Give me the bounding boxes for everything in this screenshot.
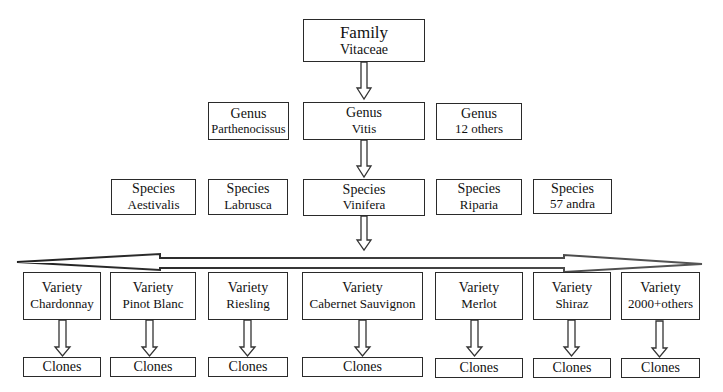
arrow-down-icon	[564, 320, 579, 356]
taxon-name: Cabernet Sauvignon	[310, 297, 416, 312]
species-box-57-andra: Species 57 andra	[533, 179, 612, 214]
rank-label: Variety	[228, 280, 268, 296]
rank-label: Species	[227, 181, 270, 197]
taxon-name: Labrusca	[224, 198, 272, 213]
rank-label: Variety	[342, 280, 382, 296]
clones-label: Clones	[343, 359, 382, 375]
taxon-name: Vinifera	[343, 198, 386, 213]
taxon-name: Aestivalis	[128, 198, 180, 213]
rank-label: Species	[458, 181, 501, 197]
clones-box: Clones	[208, 357, 288, 377]
taxon-name: 2000+others	[628, 297, 693, 312]
rank-label: Variety	[640, 280, 680, 296]
clones-label: Clones	[553, 360, 592, 376]
rank-label: Variety	[459, 280, 499, 296]
clones-label: Clones	[229, 359, 268, 375]
clones-box: Clones	[621, 358, 700, 378]
rank-label: Variety	[42, 280, 82, 296]
clones-box: Clones	[435, 358, 523, 378]
species-box-labrusca: Species Labrusca	[208, 179, 288, 215]
rank-label: Genus	[346, 105, 382, 121]
arrow-down-icon	[355, 320, 370, 356]
arrow-down-icon	[55, 320, 70, 356]
rank-label: Species	[132, 181, 175, 197]
variety-box-shiraz: Variety Shiraz	[533, 272, 611, 320]
variety-box-chardonnay: Variety Chardonnay	[23, 272, 101, 320]
clones-box: Clones	[533, 358, 611, 378]
variety-box-pinot-blanc: Variety Pinot Blanc	[110, 272, 196, 320]
genus-box-12-others: Genus 12 others	[436, 103, 522, 140]
variety-box-2000-others: Variety 2000+others	[621, 272, 700, 320]
clones-label: Clones	[134, 359, 173, 375]
rank-label: Species	[551, 181, 594, 197]
arrow-down-icon	[652, 321, 667, 357]
rank-label: Variety	[552, 280, 592, 296]
taxon-name: Pinot Blanc	[122, 297, 183, 312]
taxon-name: Riparia	[460, 198, 498, 213]
rank-label: Variety	[133, 280, 173, 296]
arrow-down-icon	[467, 320, 482, 356]
clones-label: Clones	[641, 360, 680, 376]
taxon-name: Vitis	[352, 122, 377, 137]
species-box-riparia: Species Riparia	[436, 179, 522, 215]
taxon-name: Vitaceae	[340, 42, 388, 58]
double-arrow-icon	[17, 254, 702, 272]
clones-box: Clones	[23, 357, 101, 377]
taxon-name: 12 others	[455, 122, 503, 137]
genus-box-vitis: Genus Vitis	[303, 102, 425, 140]
arrow-down-icon	[357, 216, 371, 250]
arrow-down-icon	[357, 62, 371, 99]
arrow-down-icon	[142, 320, 157, 356]
taxon-name: Riesling	[226, 297, 269, 312]
clones-label: Clones	[43, 359, 82, 375]
variety-box-merlot: Variety Merlot	[435, 272, 523, 320]
taxon-name: Merlot	[461, 297, 496, 312]
arrow-down-icon	[357, 140, 371, 177]
variety-box-cabernet-sauvignon: Variety Cabernet Sauvignon	[302, 272, 423, 320]
family-box: Family Vitaceae	[303, 19, 425, 62]
rank-label: Genus	[231, 106, 267, 122]
rank-label: Genus	[461, 106, 497, 122]
species-box-aestivalis: Species Aestivalis	[111, 179, 196, 215]
taxon-name: Shiraz	[555, 297, 588, 312]
species-box-vinifera: Species Vinifera	[303, 179, 425, 216]
clones-label: Clones	[460, 360, 499, 376]
clones-box: Clones	[302, 357, 423, 377]
rank-label: Family	[340, 23, 388, 43]
arrow-down-icon	[240, 320, 255, 356]
genus-box-parthenocissus: Genus Parthenocissus	[208, 102, 289, 140]
taxon-name: Chardonnay	[30, 297, 94, 312]
rank-label: Species	[343, 182, 386, 198]
taxon-name: Parthenocissus	[211, 122, 285, 136]
taxon-name: 57 andra	[550, 197, 595, 212]
variety-box-riesling: Variety Riesling	[208, 272, 288, 320]
clones-box: Clones	[110, 357, 196, 377]
